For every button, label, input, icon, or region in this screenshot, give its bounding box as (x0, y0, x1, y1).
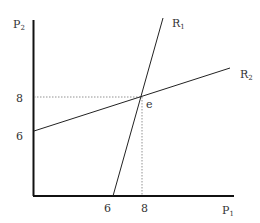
x-tick-8: 8 (141, 202, 148, 215)
r2-label: R2 (240, 68, 253, 82)
x-axis-label: P1 (222, 204, 234, 218)
x-tick-6: 6 (104, 202, 111, 215)
line-r2 (34, 68, 230, 131)
point-e-label: e (146, 98, 153, 111)
y-axis-label: P2 (13, 18, 25, 32)
y-tick-8: 8 (16, 92, 23, 105)
r1-label: R1 (172, 17, 185, 31)
line-r1 (113, 18, 163, 196)
y-tick-6: 6 (16, 130, 23, 143)
chart: P2 P1 R1 R2 e 8 6 6 8 (0, 0, 260, 223)
